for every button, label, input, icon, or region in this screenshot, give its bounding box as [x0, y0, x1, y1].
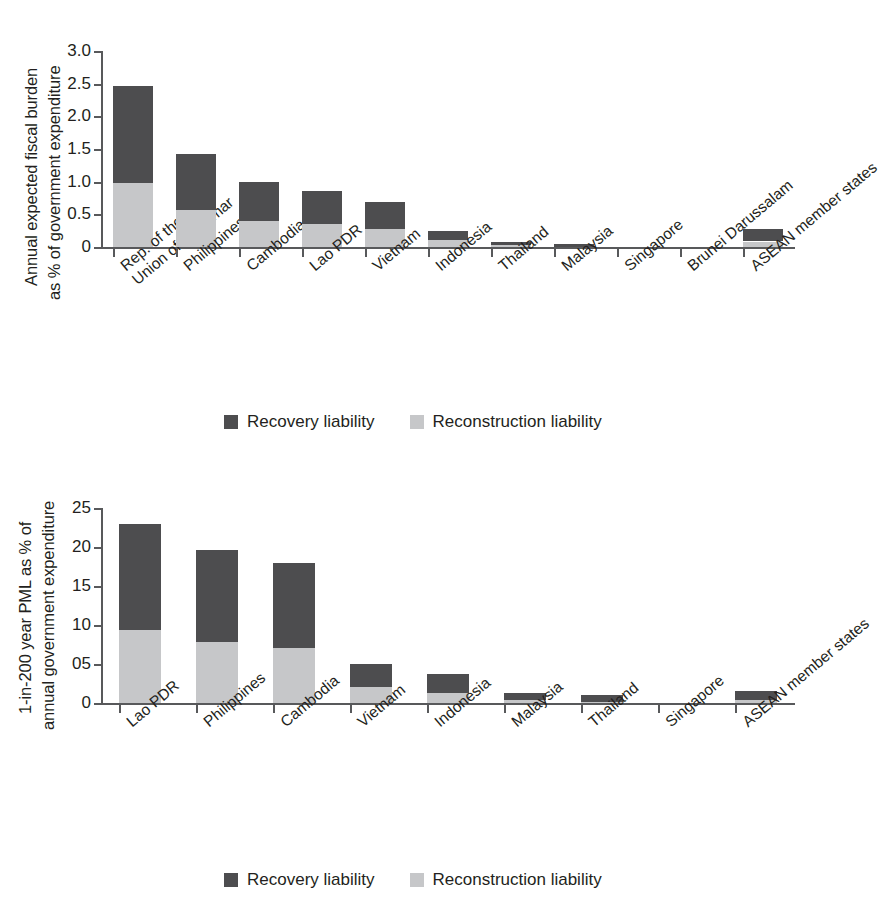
y-axis-tick: [94, 214, 101, 216]
legend-bottom: Recovery liability Reconstruction liabil…: [224, 870, 626, 890]
bar-segment-recovery: [302, 191, 342, 224]
y-axis-tick: [94, 149, 101, 151]
y-axis-tick-label: 05: [39, 655, 91, 672]
bar-segment-recovery: [113, 86, 153, 183]
x-axis-tick: [119, 705, 121, 713]
x-axis-tick: [617, 249, 619, 257]
legend-label-recovery: Recovery liability: [247, 412, 375, 432]
bar-segment-recovery: [239, 182, 279, 221]
y-axis-tick: [94, 182, 101, 184]
x-axis-tick: [273, 705, 275, 713]
x-axis-tick: [581, 705, 583, 713]
x-axis-tick: [176, 249, 178, 257]
chart-1-in-200-year-pml: 1-in-200 year PML as % of annual governm…: [0, 452, 802, 906]
y-axis-tick-label: 25: [39, 499, 91, 516]
legend-item-reconstruction: Reconstruction liability: [410, 870, 602, 890]
bar-stack: [196, 550, 238, 703]
x-axis-tick: [743, 249, 745, 257]
x-axis-tick: [196, 705, 198, 713]
bar-segment-recovery: [365, 202, 405, 229]
x-axis-tick: [428, 249, 430, 257]
legend-swatch-recovery-icon: [224, 415, 238, 429]
x-axis-tick: [113, 249, 115, 257]
y-axis-tick-label: 20: [39, 538, 91, 555]
y-axis-tick-label: 2.5: [39, 75, 91, 92]
y-axis-tick: [94, 247, 101, 249]
y-axis-tick-label: 15: [39, 577, 91, 594]
x-axis-tick: [491, 249, 493, 257]
bar-stack: [119, 524, 161, 703]
legend-item-recovery: Recovery liability: [224, 870, 375, 890]
y-axis-tick-label: 10: [39, 616, 91, 633]
x-axis-category-label: Singapore: [621, 216, 687, 275]
y-axis-tick: [94, 51, 101, 53]
y-axis-tick-label: 3.0: [39, 42, 91, 59]
x-axis-category-label-line: Brunei Darussalam: [684, 176, 796, 274]
y-axis-tick: [94, 664, 101, 666]
legend-swatch-reconstruction-icon: [410, 415, 424, 429]
y-axis-tick: [94, 625, 101, 627]
legend-swatch-reconstruction-icon: [410, 873, 424, 887]
x-axis-category-label: ASEAN member states: [747, 159, 881, 275]
x-axis-tick: [504, 705, 506, 713]
legend-top: Recovery liability Reconstruction liabil…: [224, 412, 626, 432]
y-axis-tick: [94, 547, 101, 549]
bar-segment-recovery: [176, 154, 216, 210]
bar-stack: [273, 563, 315, 703]
y-axis-tick-label: 0: [39, 238, 91, 255]
x-axis-tick: [680, 249, 682, 257]
y-axis-tick: [94, 703, 101, 705]
bar-stack: [176, 154, 216, 247]
x-axis-tick: [302, 249, 304, 257]
bar-stack: [113, 86, 153, 247]
x-axis-category-label: Brunei Darussalam: [684, 176, 796, 274]
y-axis-line: [101, 51, 103, 249]
y-axis-tick-label: 0.5: [39, 205, 91, 222]
x-axis-category-label: Singapore: [662, 672, 728, 731]
x-axis-tick: [350, 705, 352, 713]
y-axis-tick: [94, 84, 101, 86]
x-axis-category-label: ASEAN member states: [739, 615, 873, 731]
legend-label-recovery: Recovery liability: [247, 870, 375, 890]
x-axis-tick: [554, 249, 556, 257]
plot-area-top: 00.51.01.52.02.53.0Rep. of theUnion of M…: [0, 0, 802, 452]
plot-area-bottom: 00510152025Lao PDRPhilippinesCambodiaVie…: [0, 452, 802, 906]
bar-segment-recovery: [350, 664, 392, 687]
y-axis-tick: [94, 586, 101, 588]
legend-label-reconstruction: Reconstruction liability: [433, 412, 602, 432]
y-axis-tick-label: 0: [39, 694, 91, 711]
y-axis-tick: [94, 116, 101, 118]
chart-annual-expected-fiscal-burden: Annual expected fiscal burden as % of go…: [0, 0, 802, 452]
x-axis-tick: [735, 705, 737, 713]
x-axis-category-label-line: ASEAN member states: [739, 615, 872, 730]
x-axis-tick: [427, 705, 429, 713]
bar-segment-recovery: [273, 563, 315, 648]
x-axis-category-label-line: ASEAN member states: [747, 159, 880, 274]
y-axis-tick-label: 1.0: [39, 173, 91, 190]
x-axis-tick: [239, 249, 241, 257]
legend-item-reconstruction: Reconstruction liability: [410, 412, 602, 432]
legend-label-reconstruction: Reconstruction liability: [433, 870, 602, 890]
bar-segment-recovery: [196, 550, 238, 642]
y-axis-tick: [94, 508, 101, 510]
y-axis-line: [101, 508, 103, 705]
x-axis-tick: [365, 249, 367, 257]
x-axis-tick: [658, 705, 660, 713]
y-axis-tick-label: 1.5: [39, 140, 91, 157]
x-axis-category-label-line: Singapore: [621, 216, 686, 274]
x-axis-category-label-line: Singapore: [662, 672, 727, 730]
bar-segment-recovery: [119, 524, 161, 631]
y-axis-tick-label: 2.0: [39, 107, 91, 124]
legend-item-recovery: Recovery liability: [224, 412, 375, 432]
legend-swatch-recovery-icon: [224, 873, 238, 887]
